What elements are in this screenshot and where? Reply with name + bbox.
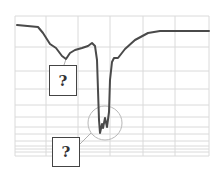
lower-question-text: ? xyxy=(62,143,71,161)
upper-question-text: ? xyxy=(59,72,68,90)
line-chart xyxy=(0,0,220,177)
grid xyxy=(15,16,209,156)
lower-question-box: ? xyxy=(52,137,80,167)
upper-question-box: ? xyxy=(49,65,77,96)
